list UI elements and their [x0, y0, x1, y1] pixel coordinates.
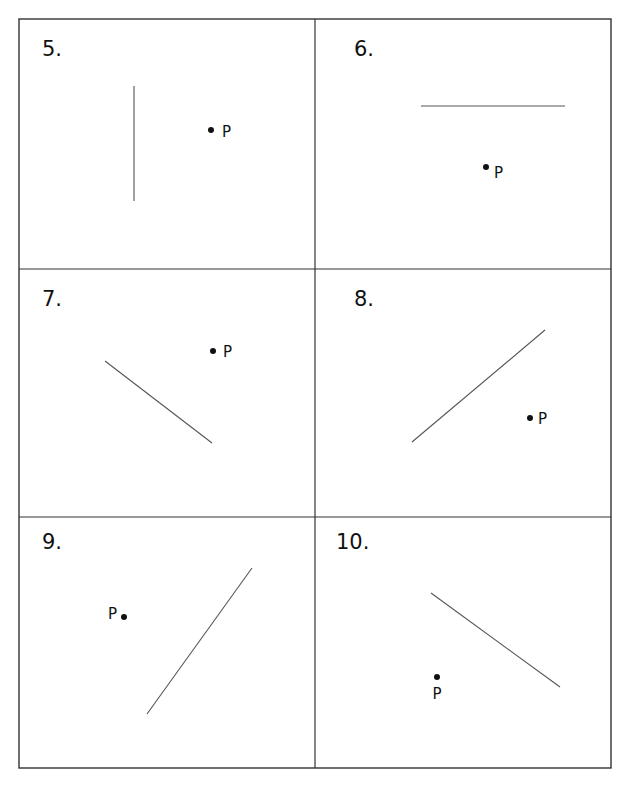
point-dot	[208, 127, 214, 133]
line-segment	[147, 568, 252, 714]
point-dot	[210, 348, 216, 354]
line-segment	[431, 593, 560, 687]
problem-number: 5.	[42, 37, 62, 61]
worksheet-grid: 5.P6.P7.P8.P9.P10.P	[0, 0, 632, 791]
grid-lines	[19, 19, 611, 768]
problem-number: 8.	[354, 287, 374, 311]
point-label: P	[494, 164, 503, 182]
problem-cell-6: 6.P	[354, 37, 565, 182]
point-dot	[527, 415, 533, 421]
problem-number: 6.	[354, 37, 374, 61]
problem-number: 9.	[42, 530, 62, 554]
point-dot	[483, 164, 489, 170]
point-label: P	[538, 410, 547, 428]
problem-cell-10: 10.P	[336, 530, 560, 703]
problem-cell-9: 9.P	[42, 530, 252, 714]
problem-cell-7: 7.P	[42, 287, 232, 443]
line-segment	[105, 361, 212, 443]
problem-number: 7.	[42, 287, 62, 311]
problem-number: 10.	[336, 530, 369, 554]
problem-cell-5: 5.P	[42, 37, 231, 201]
point-label: P	[223, 343, 232, 361]
point-dot	[434, 674, 440, 680]
point-label: P	[108, 605, 117, 623]
point-dot	[121, 614, 127, 620]
problem-cells: 5.P6.P7.P8.P9.P10.P	[42, 37, 565, 714]
point-label: P	[432, 685, 441, 703]
worksheet-page: 5.P6.P7.P8.P9.P10.P	[0, 0, 632, 791]
problem-cell-8: 8.P	[354, 287, 547, 442]
point-label: P	[222, 123, 231, 141]
line-segment	[412, 330, 545, 442]
